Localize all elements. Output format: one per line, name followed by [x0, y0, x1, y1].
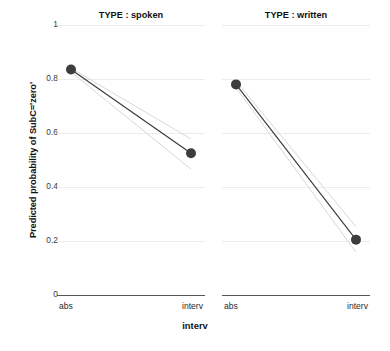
x-axis-baseline	[57, 295, 205, 296]
y-tick-label: 0.2	[32, 236, 58, 244]
x-tick-label: interv	[347, 301, 368, 311]
x-tick-label: abs	[59, 301, 73, 311]
confidence-band-line	[71, 72, 191, 169]
y-tick-label: 0.6	[32, 128, 58, 136]
fit-line	[71, 70, 191, 154]
data-point	[231, 79, 241, 89]
confidence-band-line	[236, 88, 356, 253]
x-tick-label: interv	[182, 301, 203, 311]
data-point	[351, 235, 361, 245]
x-axis-baseline	[222, 295, 370, 296]
confidence-band-line	[71, 68, 191, 139]
y-tick-label: 1	[32, 20, 58, 28]
x-axis-title: interv	[0, 320, 390, 331]
data-point	[186, 148, 196, 158]
series-group-written	[222, 25, 370, 295]
y-axis-tick-labels: 1 0.8 0.6 0.4 0.2 0	[30, 0, 58, 351]
panel-title: TYPE : spoken	[57, 10, 205, 20]
panel-written: TYPE : written abs interv	[222, 0, 370, 351]
plot-area	[57, 25, 205, 295]
series-group-spoken	[57, 25, 205, 295]
effect-plot-figure: Predicted probability of SubC='zero' 1 0…	[0, 0, 390, 351]
data-point	[66, 65, 76, 75]
y-tick-label: 0.4	[32, 182, 58, 190]
confidence-band-line	[236, 81, 356, 227]
x-tick-label: abs	[224, 301, 238, 311]
plot-area	[222, 25, 370, 295]
fit-line	[236, 84, 356, 239]
y-tick-label: 0	[32, 290, 58, 298]
panel-spoken: TYPE : spoken abs interv	[57, 0, 205, 351]
panel-title: TYPE : written	[222, 10, 370, 20]
y-tick-label: 0.8	[32, 74, 58, 82]
